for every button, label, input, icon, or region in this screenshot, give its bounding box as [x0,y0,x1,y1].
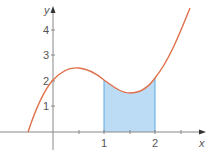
y-axis-label: y [43,4,51,16]
y-axis-arrow-icon [51,6,56,13]
x-axis-arrow-icon [199,130,206,135]
x-tick-label: 2 [152,137,158,149]
x-tick-label: 1 [101,137,107,149]
y-tick-label: 1 [43,100,49,112]
y-tick-label: 4 [43,24,49,36]
y-tick-label: 3 [43,49,49,61]
chart: 1 2 1 2 3 4 y x [0,0,214,158]
x-axis-label: x [198,137,205,149]
